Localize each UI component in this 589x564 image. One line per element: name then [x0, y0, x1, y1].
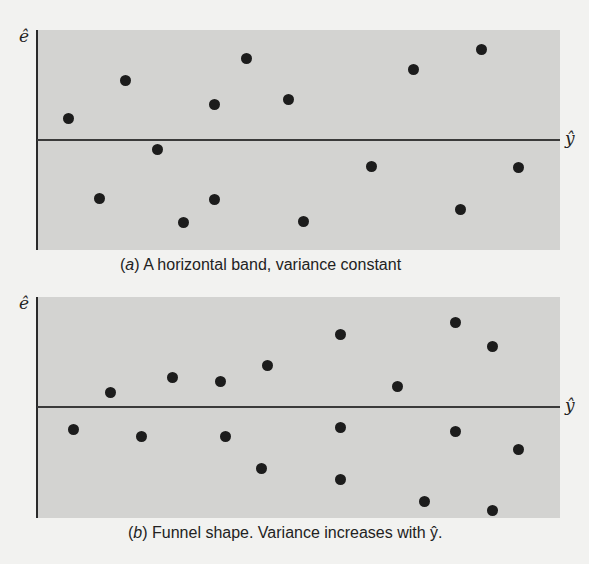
- data-point: [513, 444, 524, 455]
- data-point: [335, 329, 346, 340]
- caption: (b) Funnel shape. Variance increases wit…: [128, 524, 443, 542]
- data-point: [419, 496, 430, 507]
- x-axis-label: ŷ: [565, 395, 575, 415]
- data-point: [335, 474, 346, 485]
- data-point: [487, 341, 498, 352]
- data-point: [392, 381, 403, 392]
- data-point: [220, 431, 231, 442]
- data-point: [215, 376, 226, 387]
- data-point: [68, 424, 79, 435]
- caption-letter: b: [133, 524, 142, 541]
- data-point: [105, 387, 116, 398]
- data-point: [450, 317, 461, 328]
- y-axis-label: ê: [19, 293, 29, 313]
- chart-b-funnel-shape: ê ŷ (b) Funnel shape. Variance increases…: [0, 0, 589, 564]
- data-point: [450, 426, 461, 437]
- zero-line: [37, 406, 560, 408]
- caption-text: Funnel shape. Variance increases with ŷ.: [148, 524, 443, 541]
- data-point: [262, 360, 273, 371]
- data-point: [487, 505, 498, 516]
